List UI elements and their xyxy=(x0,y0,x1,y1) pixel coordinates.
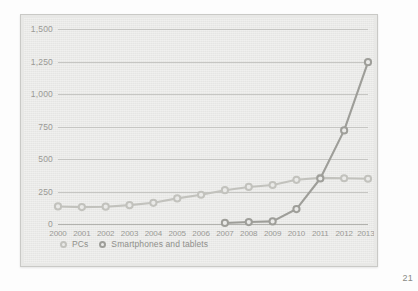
page-number: 21 xyxy=(402,273,413,283)
y-tick-label: 1,500 xyxy=(31,24,53,34)
y-tick-label: 1,250 xyxy=(31,57,53,67)
legend-label: Smartphones and tablets xyxy=(111,239,208,249)
x-tick-label: 2010 xyxy=(288,229,305,238)
y-tick-label: 1,000 xyxy=(31,89,53,99)
legend-circle-icon xyxy=(99,241,106,248)
data-point-marker xyxy=(270,182,276,188)
data-point-marker xyxy=(126,202,132,208)
data-point-marker xyxy=(222,187,228,193)
x-tick-label: 2001 xyxy=(73,229,90,238)
x-tick-label: 2002 xyxy=(97,229,114,238)
x-tick-label: 2009 xyxy=(264,229,281,238)
chart-plot-area: 02505007501,0001,2501,500 20002001200220… xyxy=(58,29,368,224)
series-smartphones-and-tablets xyxy=(222,59,371,226)
y-tick-label: 750 xyxy=(38,122,53,132)
data-point-marker xyxy=(55,203,61,209)
gridline-0 xyxy=(58,224,368,225)
x-tick-label: 2003 xyxy=(121,229,138,238)
figure-inner: 02505007501,0001,2501,500 20002001200220… xyxy=(24,18,374,263)
chart-legend: PCsSmartphones and tablets xyxy=(60,239,208,249)
data-point-marker xyxy=(79,204,85,210)
x-tick-label: 2012 xyxy=(335,229,352,238)
data-point-marker xyxy=(198,192,204,198)
data-point-marker xyxy=(341,127,347,133)
y-tick-label: 500 xyxy=(38,154,53,164)
y-tick-label: 0 xyxy=(48,219,53,229)
data-point-marker xyxy=(174,195,180,201)
x-tick-label: 2006 xyxy=(192,229,209,238)
series-line xyxy=(225,62,368,223)
data-point-marker xyxy=(365,176,371,182)
legend-label: PCs xyxy=(72,239,88,249)
x-tick-label: 2005 xyxy=(169,229,186,238)
data-point-marker xyxy=(341,175,347,181)
data-point-marker xyxy=(103,204,109,210)
x-tick-label: 2004 xyxy=(145,229,162,238)
legend-entry: Smartphones and tablets xyxy=(99,239,208,249)
x-tick-label: 2011 xyxy=(312,229,329,238)
data-point-marker xyxy=(246,219,252,225)
x-tick-label: 2000 xyxy=(49,229,66,238)
data-point-marker xyxy=(246,184,252,190)
legend-circle-icon xyxy=(60,241,67,248)
figure-frame: 02505007501,0001,2501,500 20002001200220… xyxy=(20,14,378,267)
data-point-marker xyxy=(222,220,228,226)
x-tick-label: 2007 xyxy=(216,229,233,238)
scanned-page: 02505007501,0001,2501,500 20002001200220… xyxy=(0,0,418,291)
data-point-marker xyxy=(150,200,156,206)
data-point-marker xyxy=(270,218,276,224)
legend-entry: PCs xyxy=(60,239,88,249)
x-tick-label: 2013e xyxy=(357,229,374,238)
data-point-marker xyxy=(293,177,299,183)
x-tick-label: 2008 xyxy=(240,229,257,238)
data-point-marker xyxy=(317,175,323,181)
series-lines-group xyxy=(58,29,368,224)
data-point-marker xyxy=(365,59,371,65)
data-point-marker xyxy=(293,206,299,212)
y-tick-label: 250 xyxy=(38,187,53,197)
